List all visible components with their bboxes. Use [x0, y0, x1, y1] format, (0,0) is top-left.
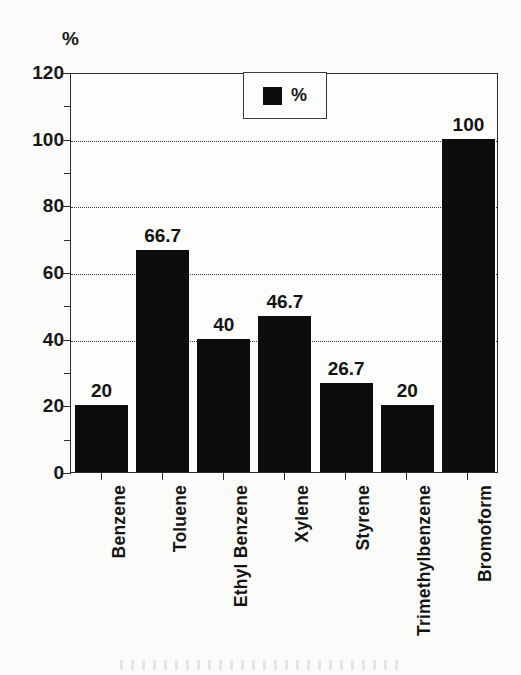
bar-value-label: 66.7 [136, 225, 189, 247]
y-axis-unit-label: % [62, 28, 79, 50]
bar-value-label: 100 [442, 114, 495, 136]
scan-artifact [120, 660, 400, 670]
x-tick [406, 473, 407, 480]
x-category-label: Benzene [109, 485, 130, 558]
plot-area: 2066.74046.726.720100 [70, 73, 498, 473]
bar [442, 139, 495, 472]
legend-label-percent: % [291, 85, 307, 106]
x-category-label: Toluene [170, 485, 191, 552]
y-tick-label: 120 [32, 62, 64, 84]
bar-value-label: 20 [381, 380, 434, 402]
bar [381, 405, 434, 472]
x-category-label: Xylene [292, 485, 313, 543]
y-axis-labels: 020406080100120 [0, 0, 64, 675]
bar-value-label: 20 [75, 380, 128, 402]
x-category-label: Styrene [353, 485, 374, 551]
chart-legend: % [243, 72, 327, 119]
bar-value-label: 26.7 [320, 358, 373, 380]
x-tick [467, 473, 468, 480]
y-tick-label: 60 [43, 262, 64, 284]
bar [75, 405, 128, 472]
y-tick-label: 40 [43, 329, 64, 351]
bar [258, 316, 311, 472]
bar-value-label: 46.7 [258, 291, 311, 313]
x-category-label: Trimethylbenzene [414, 485, 435, 636]
x-category-label: Bromoform [475, 485, 496, 582]
chart-figure: % 020406080100120 2066.74046.726.720100 … [0, 0, 521, 675]
bar [197, 339, 250, 472]
bar-value-label: 40 [197, 314, 250, 336]
legend-swatch-percent [263, 87, 282, 105]
x-category-label: Ethyl Benzene [231, 485, 252, 607]
y-tick-label: 20 [43, 395, 64, 417]
x-tick [223, 473, 224, 480]
x-axis-labels: BenzeneTolueneEthyl BenzeneXyleneStyrene… [70, 473, 498, 673]
x-tick [101, 473, 102, 480]
x-tick [162, 473, 163, 480]
y-tick-label: 100 [32, 129, 64, 151]
x-tick [284, 473, 285, 480]
x-tick [345, 473, 346, 480]
bar [320, 383, 373, 472]
bar [136, 250, 189, 472]
bar-series: 2066.74046.726.720100 [71, 74, 497, 472]
y-tick-label: 80 [43, 195, 64, 217]
